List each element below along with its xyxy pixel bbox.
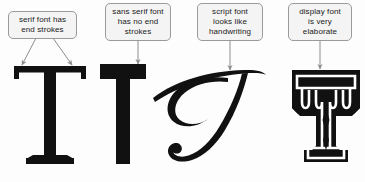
glyph-display-t: T [290, 68, 362, 168]
callout-serif: serif font has end strokes [8, 11, 77, 39]
callout-sans-serif: sans serif font has no end strokes [105, 3, 171, 41]
callout-display-line3: elaborate [293, 27, 347, 37]
glyph-script-t: T [148, 62, 268, 176]
callout-script-line3: handwriting [202, 27, 258, 37]
callout-sans-line2: has no end [110, 17, 166, 27]
callout-display-line1: display font [293, 7, 347, 17]
callout-sans-line1: sans serif font [110, 7, 166, 17]
callout-script: script font looks like handwriting [197, 3, 263, 41]
callout-display: display font is very elaborate [288, 3, 352, 41]
typography-diagram: serif font has end strokes sans serif fo… [0, 0, 365, 182]
callout-serif-line2: end strokes [13, 25, 72, 35]
glyph-sans-serif-t: T [100, 64, 146, 168]
glyph-serif-t: T [12, 66, 88, 172]
callout-script-line2: looks like [202, 17, 258, 27]
callout-sans-line3: strokes [110, 27, 166, 37]
callout-display-line2: is very [293, 17, 347, 27]
arrow-serif-right [53, 38, 72, 65]
callout-serif-line1: serif font has [13, 15, 72, 25]
arrow-serif-left [22, 38, 36, 65]
callout-script-line1: script font [202, 7, 258, 17]
